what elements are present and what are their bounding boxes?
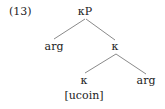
edge-root-to-kappa <box>86 19 115 40</box>
edge-kappa-to-arg <box>116 54 146 74</box>
edge-root-to-arg <box>54 19 85 39</box>
node-arg-lower: arg <box>137 75 156 87</box>
node-arg-upper: arg <box>45 41 64 53</box>
edge-kappa-to-kappa <box>85 54 116 73</box>
node-kappa-intermediate: κ <box>112 41 119 53</box>
node-root-kappaP: κP <box>78 6 92 18</box>
feature-ucoin: [ucoin] <box>64 90 103 102</box>
node-kappa-head: κ <box>81 75 88 87</box>
